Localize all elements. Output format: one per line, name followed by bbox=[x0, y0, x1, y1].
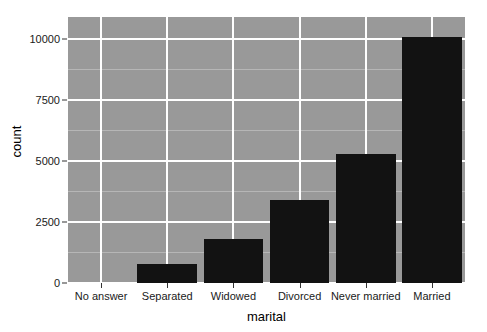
bar bbox=[270, 200, 330, 283]
x-axis-tick-label: Widowed bbox=[211, 291, 256, 302]
gridline-major-vertical bbox=[100, 17, 102, 283]
x-axis-tick-mark bbox=[432, 283, 433, 288]
y-axis-tick-label: 5000 bbox=[22, 155, 60, 166]
x-axis-tick-label: No answer bbox=[75, 291, 128, 302]
y-axis-tick-mark bbox=[62, 221, 67, 222]
bar bbox=[336, 154, 396, 283]
y-axis-tick-mark bbox=[62, 38, 67, 39]
x-axis-tick-label: Separated bbox=[142, 291, 193, 302]
y-axis-tick-mark bbox=[62, 160, 67, 161]
x-axis-tick-mark bbox=[101, 283, 102, 288]
y-axis-tick-label: 2500 bbox=[22, 216, 60, 227]
x-axis-tick-mark bbox=[300, 283, 301, 288]
x-axis-title: marital bbox=[68, 309, 465, 324]
x-axis-tick-label: Divorced bbox=[278, 291, 321, 302]
x-axis-title-text: marital bbox=[247, 309, 286, 324]
bar bbox=[204, 239, 264, 283]
bar-chart: count 025005000750010000 No answerSepara… bbox=[0, 0, 487, 332]
y-axis-tick-mark bbox=[62, 99, 67, 100]
x-axis-tick-mark bbox=[167, 283, 168, 288]
x-axis-tick-label: Married bbox=[413, 291, 450, 302]
x-axis-tick-label: Never married bbox=[331, 291, 401, 302]
x-axis-tick-mark bbox=[233, 283, 234, 288]
bar bbox=[402, 37, 462, 283]
y-axis-tick-mark bbox=[62, 283, 67, 284]
y-axis-tick-label: 0 bbox=[22, 278, 60, 289]
bar bbox=[137, 264, 197, 283]
plot-panel bbox=[68, 17, 465, 283]
x-axis-tick-mark bbox=[366, 283, 367, 288]
y-axis-tick-label: 7500 bbox=[22, 94, 60, 105]
gridline-major-vertical bbox=[166, 17, 168, 283]
y-axis-tick-labels: 025005000750010000 bbox=[22, 0, 60, 332]
y-axis-tick-label: 10000 bbox=[22, 33, 60, 44]
